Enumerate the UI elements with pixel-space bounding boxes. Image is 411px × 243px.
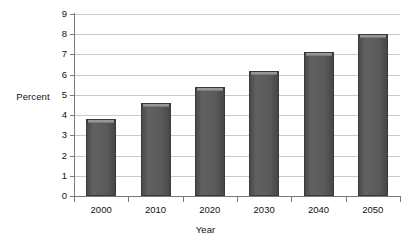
x-tick-label: 2030 xyxy=(239,205,289,215)
x-tick-mark xyxy=(128,197,129,202)
y-tick-mark xyxy=(70,75,75,76)
x-tick-mark xyxy=(400,197,401,202)
bar xyxy=(358,34,388,196)
bar-top-highlight xyxy=(305,52,333,56)
x-tick-label: 2040 xyxy=(294,205,344,215)
y-tick-mark xyxy=(70,115,75,116)
x-tick-label: 2000 xyxy=(76,205,126,215)
y-tick-label: 8 xyxy=(52,29,67,39)
y-tick-mark xyxy=(70,156,75,157)
y-tick-mark xyxy=(70,95,75,96)
y-tick-mark xyxy=(70,176,75,177)
x-tick-mark xyxy=(183,197,184,202)
y-tick-label: 5 xyxy=(52,90,67,100)
x-tick-label: 2050 xyxy=(348,205,398,215)
gridline xyxy=(74,75,400,76)
y-tick-label: 6 xyxy=(52,70,67,80)
y-tick-label: 1 xyxy=(52,171,67,181)
y-tick-label: 3 xyxy=(52,130,67,140)
gridline xyxy=(74,115,400,116)
x-tick-mark xyxy=(291,197,292,202)
y-tick-label: 9 xyxy=(52,9,67,19)
bar xyxy=(304,52,334,196)
x-axis-title: Year xyxy=(0,224,411,235)
gridline xyxy=(74,54,400,55)
bar xyxy=(195,87,225,196)
bar-top-highlight xyxy=(142,103,170,107)
x-tick-label: 2010 xyxy=(131,205,181,215)
gridline xyxy=(74,176,400,177)
y-tick-label: 0 xyxy=(52,191,67,201)
x-tick-label: 2020 xyxy=(185,205,235,215)
bar-top-highlight xyxy=(250,71,278,75)
bar-top-highlight xyxy=(359,34,387,38)
y-tick-label: 7 xyxy=(52,49,67,59)
y-tick-mark xyxy=(70,34,75,35)
bar-top-highlight xyxy=(87,119,115,123)
bar xyxy=(141,103,171,196)
gridline xyxy=(74,95,400,96)
x-tick-mark xyxy=(346,197,347,202)
gridline xyxy=(74,34,400,35)
gridline xyxy=(74,135,400,136)
bar-top-highlight xyxy=(196,87,224,91)
y-tick-mark xyxy=(70,135,75,136)
y-tick-mark xyxy=(70,54,75,55)
y-tick-label: 4 xyxy=(52,110,67,120)
bar-chart: Percent 0123456789 200020102020203020402… xyxy=(0,0,411,243)
y-tick-label: 2 xyxy=(52,151,67,161)
gridline xyxy=(74,156,400,157)
x-tick-mark xyxy=(74,197,75,202)
bar xyxy=(86,119,116,196)
gridline xyxy=(74,14,400,15)
plot-area xyxy=(74,14,400,196)
x-tick-mark xyxy=(237,197,238,202)
y-tick-mark xyxy=(70,14,75,15)
bar xyxy=(249,71,279,196)
